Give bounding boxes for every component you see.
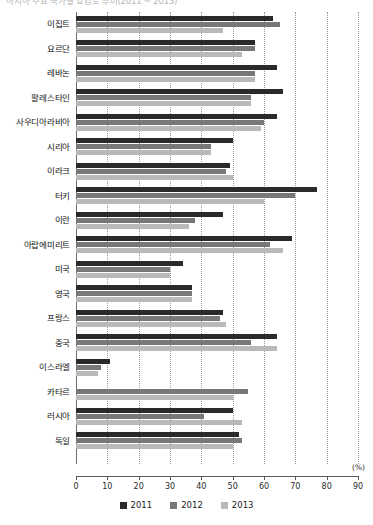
category-label: 레바논 <box>0 61 70 86</box>
bar-2011 <box>76 285 192 290</box>
chart-title: 아시아 주요 국가별 호감도 추이(2011 ~ 2013) <box>6 0 366 7</box>
x-tick-50 <box>233 476 234 480</box>
x-tick-label: 30 <box>155 482 185 491</box>
x-tick-label: 60 <box>249 482 279 491</box>
x-tick-60 <box>264 476 265 480</box>
x-axis-line <box>76 476 359 477</box>
bar-row: 카타르 <box>0 380 373 405</box>
category-label: 이스라엘 <box>0 355 70 380</box>
bar-2011 <box>76 261 183 266</box>
bar-2013 <box>76 77 255 82</box>
bar-2012 <box>76 242 270 247</box>
category-label: 이집트 <box>0 12 70 37</box>
bar-row: 미국 <box>0 257 373 282</box>
x-tick-label: 80 <box>312 482 342 491</box>
bar-2012 <box>76 71 255 76</box>
bar-2012 <box>76 46 255 51</box>
bar-2013 <box>76 395 233 400</box>
bar-2011 <box>76 16 273 21</box>
bar-row: 아랍에미리트 <box>0 233 373 258</box>
category-label: 영국 <box>0 282 70 307</box>
bar-2013 <box>76 297 192 302</box>
bar-2013 <box>76 371 98 376</box>
category-label: 요르단 <box>0 37 70 62</box>
x-tick-label: 10 <box>92 482 122 491</box>
x-tick-label: 20 <box>124 482 154 491</box>
bar-2011 <box>76 187 317 192</box>
legend-swatch-2011 <box>120 502 127 509</box>
legend-item-2012[interactable]: 2012 <box>170 500 203 510</box>
bar-row: 러시아 <box>0 404 373 429</box>
bar-2013 <box>76 444 233 449</box>
x-tick-40 <box>201 476 202 480</box>
bar-2012 <box>76 267 170 272</box>
bar-2013 <box>76 28 223 33</box>
legend-label: 2012 <box>181 500 203 510</box>
bar-2013 <box>76 420 242 425</box>
x-tick-label: 0 <box>61 482 91 491</box>
bar-2013 <box>76 101 251 106</box>
x-tick-label: 50 <box>218 482 248 491</box>
bar-2011 <box>76 432 239 437</box>
bar-2011 <box>76 310 223 315</box>
bar-2013 <box>76 52 242 57</box>
bar-row: 레바논 <box>0 61 373 86</box>
legend-item-2011[interactable]: 2011 <box>120 500 153 510</box>
bar-2011 <box>76 236 292 241</box>
bar-row: 요르단 <box>0 37 373 62</box>
legend-label: 2013 <box>232 500 254 510</box>
x-tick-70 <box>295 476 296 480</box>
x-tick-label: 70 <box>280 482 310 491</box>
bar-2012 <box>76 169 226 174</box>
bar-2013 <box>76 322 226 327</box>
bar-2011 <box>76 359 110 364</box>
bar-2011 <box>76 89 283 94</box>
x-tick-80 <box>327 476 328 480</box>
category-label: 시리아 <box>0 135 70 160</box>
legend-swatch-2012 <box>170 502 177 509</box>
bar-2012 <box>76 193 295 198</box>
bar-2011 <box>76 65 277 70</box>
bar-row: 팔레스타인 <box>0 86 373 111</box>
x-tick-label: 40 <box>186 482 216 491</box>
x-tick-30 <box>170 476 171 480</box>
chart-legend: 201120122013 <box>0 500 373 510</box>
x-tick-0 <box>76 476 77 480</box>
bar-row: 독일 <box>0 429 373 454</box>
bar-2013 <box>76 224 189 229</box>
legend-swatch-2013 <box>221 502 228 509</box>
bar-2012 <box>76 389 248 394</box>
bar-2011 <box>76 212 223 217</box>
bar-row: 시리아 <box>0 135 373 160</box>
category-label: 이란 <box>0 208 70 233</box>
category-label: 사우디아라비아 <box>0 110 70 135</box>
bar-2013 <box>76 199 264 204</box>
x-tick-90 <box>358 476 359 480</box>
category-label: 프랑스 <box>0 306 70 331</box>
bar-2012 <box>76 120 264 125</box>
category-label: 중국 <box>0 331 70 356</box>
category-label: 터키 <box>0 184 70 209</box>
bar-2012 <box>76 291 192 296</box>
bar-row: 프랑스 <box>0 306 373 331</box>
bar-2013 <box>76 248 283 253</box>
bar-2012 <box>76 144 211 149</box>
legend-item-2013[interactable]: 2013 <box>221 500 254 510</box>
bar-row: 영국 <box>0 282 373 307</box>
bar-row: 터키 <box>0 184 373 209</box>
bar-2012 <box>76 340 251 345</box>
bar-row: 중국 <box>0 331 373 356</box>
x-tick-20 <box>139 476 140 480</box>
bar-chart: 아시아 주요 국가별 호감도 추이(2011 ~ 2013) 이집트요르단레바논… <box>0 0 373 525</box>
bar-2011 <box>76 138 233 143</box>
bar-2012 <box>76 316 220 321</box>
bar-2012 <box>76 22 280 27</box>
category-label: 러시아 <box>0 404 70 429</box>
bar-2013 <box>76 126 261 131</box>
x-tick-label: 90 <box>343 482 373 491</box>
bar-2012 <box>76 218 195 223</box>
category-label: 독일 <box>0 429 70 454</box>
legend-label: 2011 <box>131 500 153 510</box>
bar-row: 사우디아라비아 <box>0 110 373 135</box>
bar-2013 <box>76 273 170 278</box>
